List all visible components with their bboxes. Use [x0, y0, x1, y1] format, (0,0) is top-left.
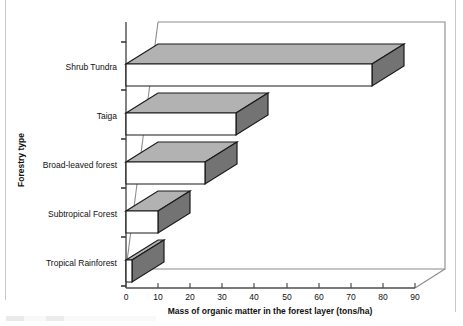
y-tick-label-tropical-rainforest: Tropical Rainforest — [46, 258, 118, 268]
y-axis-ticks — [121, 42, 126, 286]
x-axis-ticks — [126, 283, 415, 288]
bar-broad-leaved-forest[interactable] — [126, 142, 237, 184]
bar-front-face — [126, 260, 132, 282]
x-tick-label-80: 80 — [378, 292, 388, 302]
chart-canvas: Shrub Tundra Taiga Broad-leaved forest S… — [0, 0, 463, 326]
y-tick-label-subtropical-forest: Subtropical Forest — [48, 209, 118, 219]
bar-front-face — [126, 113, 236, 135]
bar-front-face — [126, 64, 372, 86]
x-tick-label-30: 30 — [217, 292, 227, 302]
bar-front-face — [126, 162, 205, 184]
y-axis-title: Forestry type — [16, 133, 26, 187]
bar-taiga[interactable] — [126, 93, 268, 135]
y-tick-label-taiga: Taiga — [97, 111, 118, 121]
x-tick-label-20: 20 — [185, 292, 195, 302]
y-tick-label-shrub-tundra: Shrub Tundra — [65, 62, 117, 72]
x-tick-label-40: 40 — [249, 292, 259, 302]
bar-front-face — [126, 211, 158, 233]
bar-top-face — [126, 44, 404, 64]
x-tick-label-0: 0 — [124, 292, 129, 302]
x-tick-label-70: 70 — [346, 292, 356, 302]
x-tick-label-60: 60 — [314, 292, 324, 302]
x-axis-title: Mass of organic matter in the forest lay… — [168, 306, 373, 316]
x-tick-label-50: 50 — [282, 292, 292, 302]
x-tick-label-90: 90 — [410, 292, 420, 302]
bar-shrub-tundra[interactable] — [126, 44, 404, 86]
chart-3d-bar: Shrub Tundra Taiga Broad-leaved forest S… — [0, 0, 463, 326]
x-tick-label-10: 10 — [153, 292, 163, 302]
y-tick-label-broad-leaved-forest: Broad-leaved forest — [43, 160, 118, 170]
bar-tropical-rainforest[interactable] — [126, 240, 164, 282]
